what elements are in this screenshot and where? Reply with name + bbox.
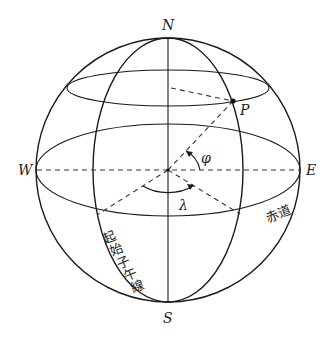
phi-label: φ (201, 150, 211, 166)
lat-radius-to-p-line (171, 88, 233, 101)
center-point (166, 168, 169, 171)
phi-arrowhead-icon (186, 151, 193, 157)
prime-meridian-char: 線 (129, 277, 147, 296)
west-label: W (18, 162, 34, 178)
north-label: N (161, 17, 175, 33)
point-p-label: P (239, 102, 250, 118)
lambda-label: λ (178, 197, 188, 213)
center-to-prime-meridian-line (97, 170, 168, 215)
globe-diagram: N S W E P φ λ 赤道 起 始 子 午 線 (0, 0, 331, 344)
point-p-marker (230, 98, 235, 103)
east-label: E (305, 162, 316, 178)
south-label: S (163, 310, 173, 326)
